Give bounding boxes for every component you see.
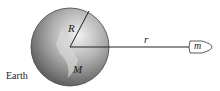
satellite-label: m: [194, 40, 201, 51]
distance-label: r: [144, 33, 148, 45]
earth-label: Earth: [6, 70, 28, 81]
radius-label: R: [68, 22, 75, 34]
mass-label: M: [73, 63, 82, 75]
orbit-diagram: [0, 0, 220, 91]
